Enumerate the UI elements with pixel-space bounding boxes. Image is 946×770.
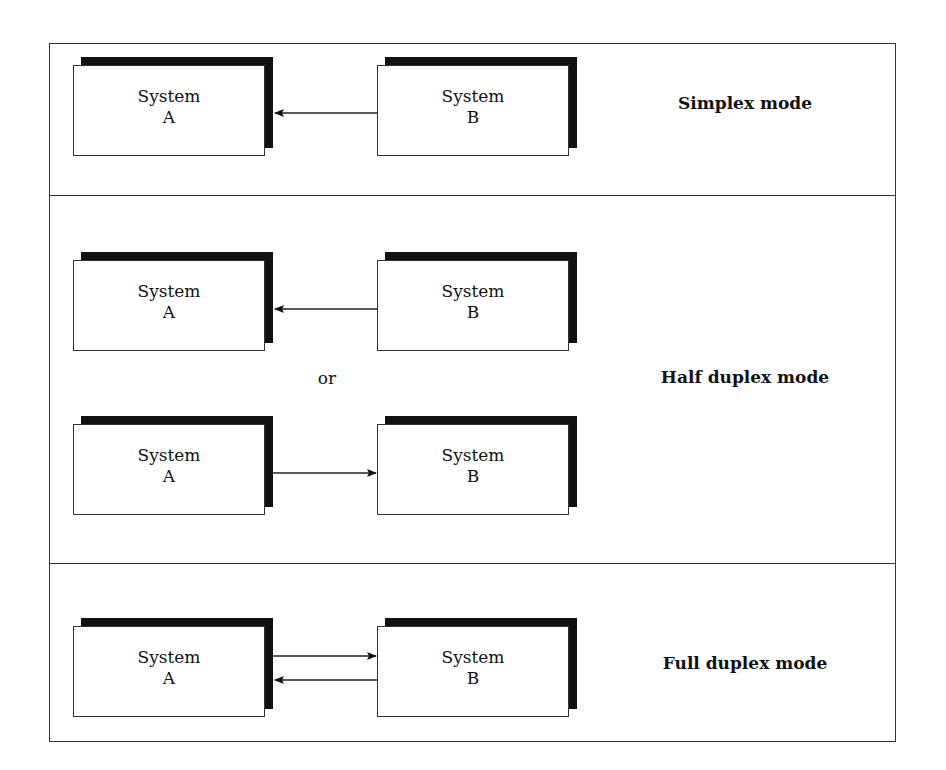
arrows-layer	[0, 0, 946, 770]
